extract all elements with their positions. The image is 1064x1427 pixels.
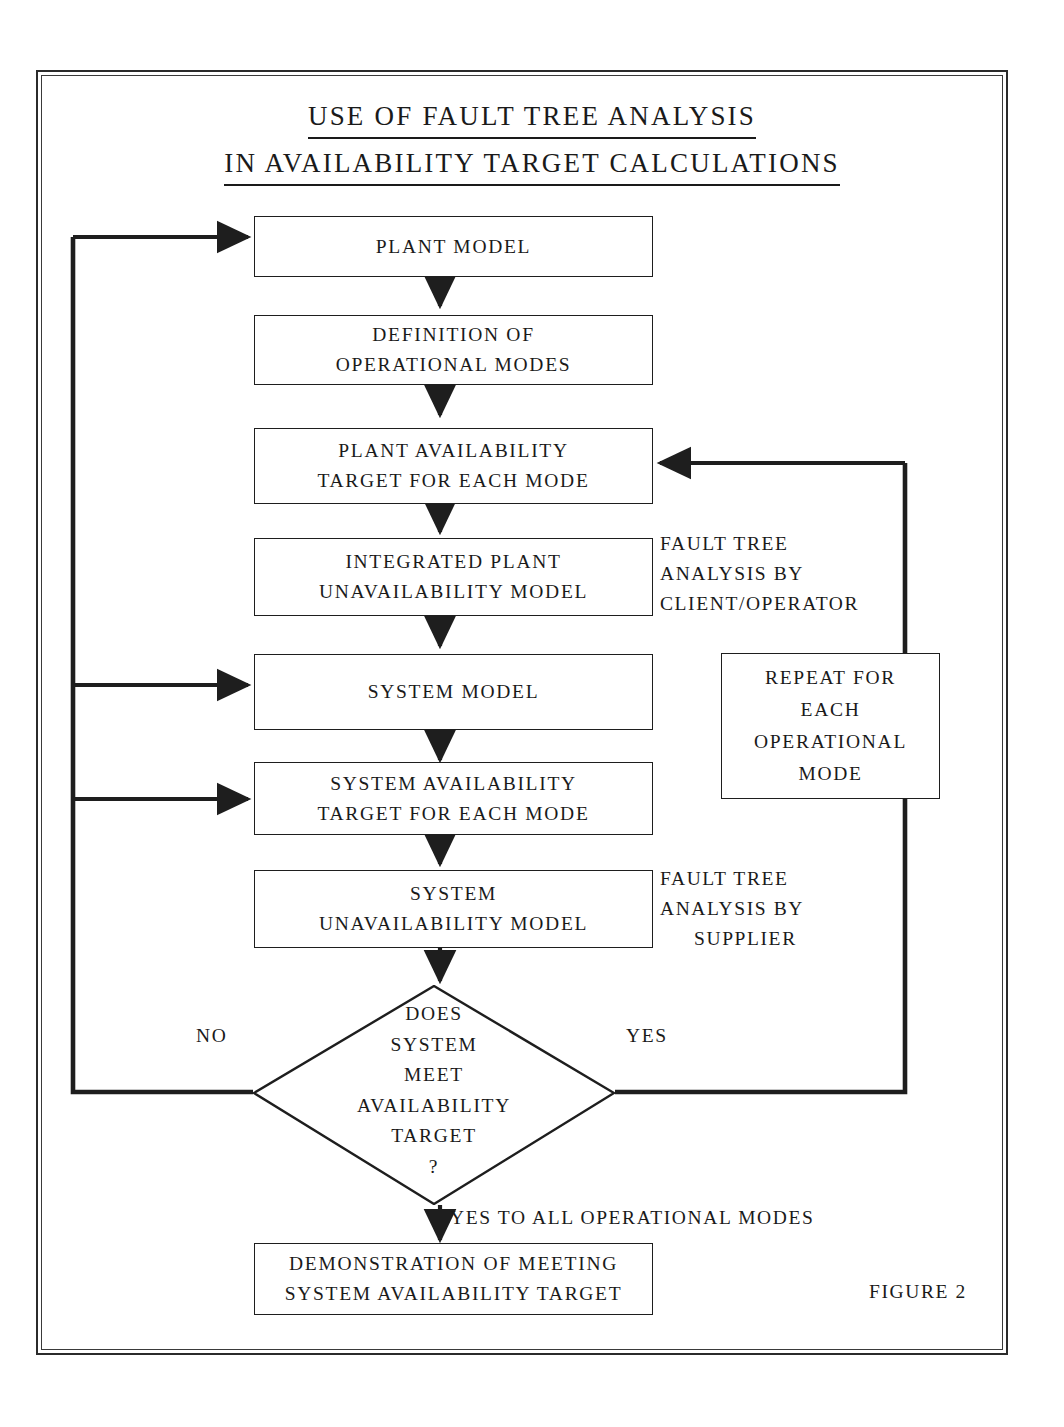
decision-line-2: SYSTEM — [253, 1030, 615, 1061]
node-repeat-line-3: OPERATIONAL — [754, 726, 907, 758]
annotation-fault-tree-analysis-client: FAULT TREE ANALYSIS BY CLIENT/OPERATOR — [660, 529, 859, 619]
node-repeat-for-each-operational-mode[interactable]: REPEAT FOR EACH OPERATIONAL MODE — [721, 653, 940, 799]
decision-line-4: AVAILABILITY — [253, 1091, 615, 1122]
node-plant-model-line-1: PLANT MODEL — [376, 232, 531, 262]
annotation-supplier-line-2: ANALYSIS BY — [660, 894, 804, 924]
annotation-supplier-line-1: FAULT TREE — [660, 864, 804, 894]
figure-page: USE OF FAULT TREE ANALYSIS IN AVAILABILI… — [0, 0, 1064, 1427]
title-line-1: USE OF FAULT TREE ANALYSIS — [308, 96, 756, 139]
figure-title: USE OF FAULT TREE ANALYSIS IN AVAILABILI… — [0, 96, 1064, 186]
node-plant-availability-line-1: PLANT AVAILABILITY — [338, 436, 569, 466]
annotation-no-label: NO — [196, 1021, 227, 1051]
node-system-unavailability-line-2: UNAVAILABILITY MODEL — [319, 909, 588, 939]
decision-line-5: TARGET — [253, 1121, 615, 1152]
node-system-availability-line-2: TARGET FOR EACH MODE — [317, 799, 589, 829]
node-system-model[interactable]: SYSTEM MODEL — [254, 654, 653, 730]
annotation-yes-to-all-operational-modes: YES TO ALL OPERATIONAL MODES — [450, 1203, 814, 1233]
title-line-2: IN AVAILABILITY TARGET CALCULATIONS — [224, 143, 840, 186]
decision-label: DOES SYSTEM MEET AVAILABILITY TARGET ? — [253, 999, 615, 1182]
decision-line-6: ? — [253, 1152, 615, 1183]
annotation-branch-no: NO — [196, 1021, 227, 1051]
annotation-supplier-line-3: SUPPLIER — [660, 924, 804, 954]
node-system-unavailability-model[interactable]: SYSTEM UNAVAILABILITY MODEL — [254, 870, 653, 948]
node-demonstration-of-meeting-target[interactable]: DEMONSTRATION OF MEETING SYSTEM AVAILABI… — [254, 1243, 653, 1315]
node-plant-model[interactable]: PLANT MODEL — [254, 216, 653, 277]
decision-line-3: MEET — [253, 1060, 615, 1091]
node-definition-line-1: DEFINITION OF — [372, 320, 534, 350]
figure-number-text: FIGURE 2 — [869, 1277, 967, 1307]
annotation-yes-all-modes-label: YES TO ALL OPERATIONAL MODES — [450, 1203, 814, 1233]
node-system-unavailability-line-1: SYSTEM — [410, 879, 497, 909]
node-integrated-plant-unavailability-model[interactable]: INTEGRATED PLANT UNAVAILABILITY MODEL — [254, 538, 653, 616]
decision-line-1: DOES — [253, 999, 615, 1030]
node-plant-availability-target[interactable]: PLANT AVAILABILITY TARGET FOR EACH MODE — [254, 428, 653, 504]
node-definition-of-operational-modes[interactable]: DEFINITION OF OPERATIONAL MODES — [254, 315, 653, 385]
annotation-client-line-1: FAULT TREE — [660, 529, 859, 559]
annotation-client-line-2: ANALYSIS BY — [660, 559, 859, 589]
annotation-client-line-3: CLIENT/OPERATOR — [660, 589, 859, 619]
node-integrated-line-1: INTEGRATED PLANT — [345, 547, 561, 577]
node-integrated-line-2: UNAVAILABILITY MODEL — [319, 577, 588, 607]
figure-number-label: FIGURE 2 — [869, 1277, 967, 1307]
node-system-model-line-1: SYSTEM MODEL — [368, 677, 540, 707]
node-demonstration-line-2: SYSTEM AVAILABILITY TARGET — [285, 1279, 623, 1309]
node-repeat-line-1: REPEAT FOR — [765, 662, 896, 694]
annotation-fault-tree-analysis-supplier: FAULT TREE ANALYSIS BY SUPPLIER — [660, 864, 804, 954]
node-plant-availability-line-2: TARGET FOR EACH MODE — [317, 466, 589, 496]
node-system-availability-line-1: SYSTEM AVAILABILITY — [330, 769, 577, 799]
node-repeat-line-4: MODE — [798, 758, 862, 790]
node-definition-line-2: OPERATIONAL MODES — [336, 350, 572, 380]
annotation-branch-yes: YES — [626, 1021, 668, 1051]
annotation-yes-label: YES — [626, 1021, 668, 1051]
node-system-availability-target[interactable]: SYSTEM AVAILABILITY TARGET FOR EACH MODE — [254, 762, 653, 835]
node-repeat-line-2: EACH — [801, 694, 861, 726]
node-demonstration-line-1: DEMONSTRATION OF MEETING — [289, 1249, 618, 1279]
node-decision-does-system-meet-availability-target[interactable]: DOES SYSTEM MEET AVAILABILITY TARGET ? — [253, 985, 615, 1205]
